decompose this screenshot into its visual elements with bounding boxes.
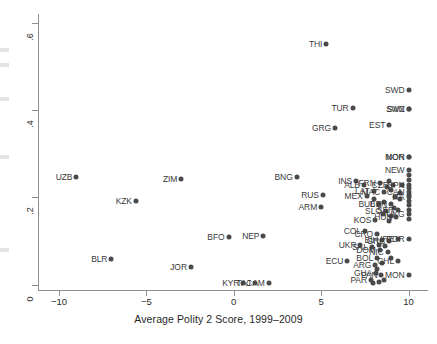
data-point-label: MON bbox=[385, 152, 405, 162]
data-point bbox=[406, 177, 411, 182]
data-point-label: SVN bbox=[387, 104, 404, 114]
data-point bbox=[109, 257, 114, 262]
data-point bbox=[406, 237, 411, 242]
data-point-label: BFO bbox=[207, 232, 224, 242]
x-axis-tick-label: −5 bbox=[141, 296, 152, 307]
data-point bbox=[406, 195, 411, 200]
x-axis-tick-label: 0 bbox=[231, 296, 236, 307]
data-point bbox=[266, 281, 271, 286]
data-point bbox=[406, 107, 411, 112]
data-point bbox=[379, 273, 384, 278]
data-point-label: KOS bbox=[354, 215, 372, 225]
data-point-label: CHL bbox=[377, 256, 394, 266]
data-point-label: NEW bbox=[385, 165, 405, 175]
x-axis-tick-label: −10 bbox=[51, 296, 67, 307]
data-point-label: PAR bbox=[350, 275, 367, 285]
y-axis-tick-label: .6 bbox=[25, 22, 35, 52]
data-point-label: TAJ bbox=[237, 278, 251, 288]
data-point-label: ARM bbox=[299, 202, 318, 212]
data-point-label: UZB bbox=[56, 172, 73, 182]
data-point bbox=[261, 233, 266, 238]
data-point-label: BLR bbox=[91, 254, 107, 264]
scan-artifact bbox=[0, 155, 9, 159]
data-point bbox=[406, 168, 411, 173]
y-axis-tick-label: 0 bbox=[25, 284, 35, 314]
data-point-label: MON bbox=[385, 270, 405, 280]
data-point bbox=[373, 263, 378, 268]
y-axis-tick-label: .2 bbox=[25, 196, 35, 226]
data-point bbox=[406, 87, 411, 92]
data-point bbox=[333, 125, 338, 130]
data-point bbox=[319, 205, 324, 210]
data-point-label: TUR bbox=[331, 103, 348, 113]
data-point-label: ECU bbox=[326, 256, 344, 266]
data-point bbox=[294, 174, 299, 179]
data-point bbox=[133, 198, 138, 203]
data-point bbox=[406, 155, 411, 160]
data-point bbox=[350, 105, 355, 110]
data-point bbox=[324, 41, 329, 46]
data-point bbox=[345, 258, 350, 263]
data-point bbox=[226, 234, 231, 239]
data-point bbox=[406, 273, 411, 278]
data-point bbox=[364, 193, 369, 198]
scatter-plot-figure: Average Polity 2 Score, 1999–2009 0.2.4.… bbox=[0, 0, 437, 344]
data-point bbox=[368, 277, 373, 282]
data-point bbox=[396, 258, 401, 263]
data-point bbox=[385, 250, 390, 255]
scan-artifact bbox=[0, 248, 9, 252]
data-point-label: NEP bbox=[242, 231, 259, 241]
data-point bbox=[406, 217, 411, 222]
data-point-label: JOR bbox=[170, 262, 187, 272]
x-axis-tick-label: 10 bbox=[403, 296, 414, 307]
x-axis-tick-label: 5 bbox=[318, 296, 323, 307]
data-point-label: KZK bbox=[116, 196, 132, 206]
data-point bbox=[406, 212, 411, 217]
y-axis-tick-label: .4 bbox=[25, 109, 35, 139]
scan-artifact bbox=[0, 97, 9, 101]
data-point bbox=[376, 280, 381, 285]
x-axis-title: Average Polity 2 Score, 1999–2009 bbox=[0, 313, 437, 325]
data-point bbox=[382, 190, 387, 195]
data-point-label: BNG bbox=[275, 172, 293, 182]
data-point bbox=[188, 265, 193, 270]
data-point bbox=[387, 123, 392, 128]
data-point-label: POR bbox=[386, 234, 404, 244]
scan-artifact bbox=[0, 48, 9, 52]
data-point bbox=[74, 175, 79, 180]
data-point bbox=[179, 176, 184, 181]
scan-artifact bbox=[0, 63, 9, 67]
data-point-label: UKG bbox=[386, 209, 404, 219]
data-point-label: GRG bbox=[312, 123, 331, 133]
data-point bbox=[252, 281, 257, 286]
data-point bbox=[320, 193, 325, 198]
data-point-label: ZIM bbox=[163, 174, 177, 184]
data-point-label: THI bbox=[309, 39, 322, 49]
data-point bbox=[406, 183, 411, 188]
data-point-label: ITA bbox=[392, 192, 404, 202]
data-point-label: SWD bbox=[385, 85, 405, 95]
data-point-label: EST bbox=[369, 120, 385, 130]
data-point-label: RUS bbox=[301, 190, 319, 200]
data-point bbox=[373, 218, 378, 223]
